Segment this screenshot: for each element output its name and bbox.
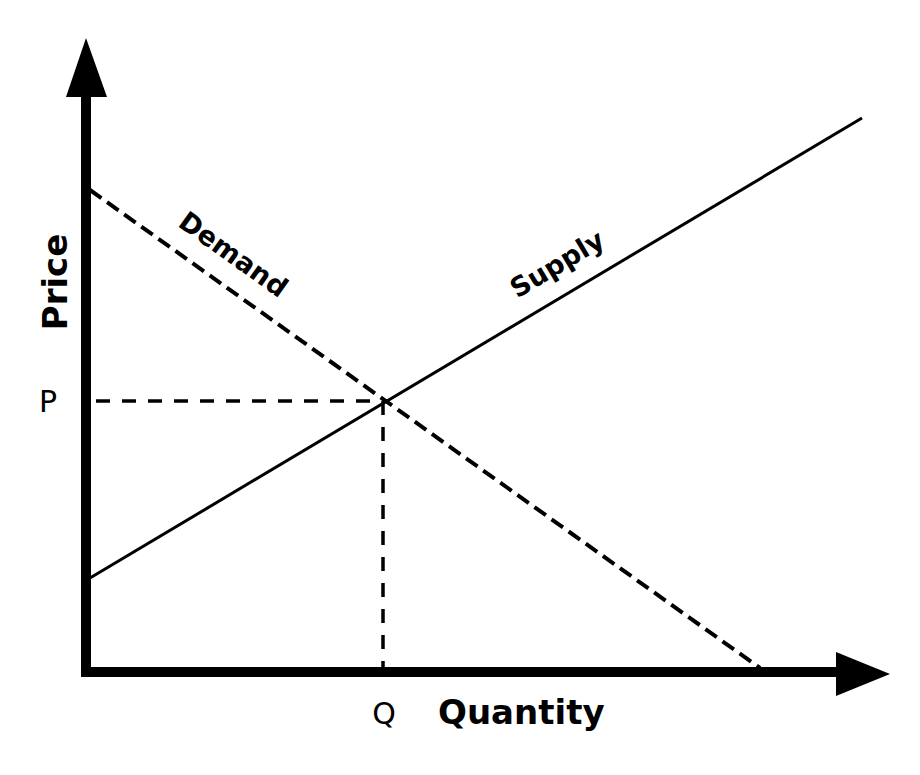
supply-curve (90, 118, 862, 578)
demand-curve (90, 190, 760, 668)
supply-label: Supply (504, 224, 610, 304)
demand-label: Demand (173, 205, 293, 303)
x-axis-label: Quantity (438, 692, 605, 732)
supply-demand-diagram: Price Quantity P Q Demand Supply (0, 0, 920, 775)
equilibrium-price-label: P (39, 384, 57, 419)
y-axis-arrowhead-icon (66, 38, 107, 97)
x-axis-arrowhead-icon (836, 652, 890, 696)
equilibrium-quantity-label: Q (372, 696, 396, 731)
y-axis-label: Price (35, 234, 75, 331)
